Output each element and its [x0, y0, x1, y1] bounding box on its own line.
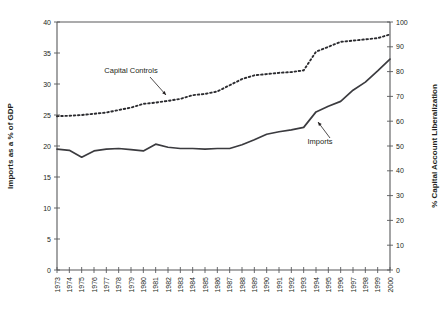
right-axis-tick-label: 0	[396, 267, 400, 274]
x-axis-tick-label: 1975	[78, 277, 85, 293]
x-axis-tick-label: 1984	[189, 277, 196, 293]
left-axis-tick-label: 10	[43, 205, 51, 212]
x-axis: 1973197419751976197719781979198019811982…	[54, 267, 394, 293]
x-axis-tick-label: 1983	[177, 277, 184, 293]
left-axis-tick-label: 30	[43, 81, 51, 88]
x-axis-tick-label: 1987	[226, 277, 233, 293]
right-axis-tick-label: 90	[396, 43, 404, 50]
x-axis-tick-label: 1992	[288, 277, 295, 293]
annotation-label-imports: Imports	[307, 137, 332, 146]
x-axis-tick-label: 1988	[239, 277, 246, 293]
x-axis-tick-label: 1982	[165, 277, 172, 293]
left-axis-title: Imports as a % of GDP	[6, 102, 15, 188]
x-axis-tick-label: 1999	[374, 277, 381, 293]
x-axis-tick-label: 1973	[54, 277, 61, 293]
x-axis-tick-label: 1981	[152, 277, 159, 293]
left-axis-tick-label: 40	[43, 19, 51, 26]
x-axis-tick-label: 1990	[263, 277, 270, 293]
right-axis-tick-label: 50	[396, 143, 404, 150]
right-axis-tick-label: 40	[396, 167, 404, 174]
x-axis-tick-label: 1985	[202, 277, 209, 293]
left-axis-tick-label: 20	[43, 143, 51, 150]
left-axis-tick-label: 15	[43, 174, 51, 181]
left-axis-tick-label: 25	[43, 112, 51, 119]
right-axis-tick-label: 30	[396, 192, 404, 199]
x-axis-tick-label: 1979	[128, 277, 135, 293]
right-axis-tick-label: 70	[396, 93, 404, 100]
left-axis-tick-label: 35	[43, 50, 51, 57]
left-axis: 0510152025303540	[43, 19, 390, 274]
right-axis-tick-label: 20	[396, 217, 404, 224]
x-axis-tick-label: 1989	[251, 277, 258, 293]
right-axis-title: % Capital Account Liberalization	[430, 84, 439, 208]
x-axis-tick-label: 1997	[350, 277, 357, 293]
annotation-label-capital-controls: Capital Controls	[104, 66, 158, 75]
series-annotations: Capital ControlsImports	[104, 66, 332, 146]
x-axis-tick-label: 1978	[115, 277, 122, 293]
x-axis-tick-label: 1977	[103, 277, 110, 293]
series-line-capital-controls	[57, 34, 390, 116]
x-axis-tick-label: 1991	[276, 277, 283, 293]
x-axis-tick-label: 1993	[300, 277, 307, 293]
x-axis-tick-label: 1994	[313, 277, 320, 293]
chart-container: 0510152025303540 0102030405060708090100 …	[0, 0, 446, 310]
right-axis-tick-label: 10	[396, 242, 404, 249]
left-axis-tick-label: 5	[47, 236, 51, 243]
dual-axis-line-chart: 0510152025303540 0102030405060708090100 …	[0, 0, 446, 310]
right-axis-tick-label: 80	[396, 68, 404, 75]
right-axis-tick-label: 100	[396, 19, 408, 26]
left-axis-tick-label: 0	[47, 267, 51, 274]
right-axis-tick-label: 60	[396, 118, 404, 125]
right-axis: 0102030405060708090100	[387, 19, 408, 274]
x-axis-tick-label: 1996	[337, 277, 344, 293]
x-axis-tick-label: 1974	[66, 277, 73, 293]
annotation-arrowhead	[318, 122, 322, 126]
x-axis-tick-label: 2000	[387, 277, 394, 293]
x-axis-tick-label: 1976	[91, 277, 98, 293]
x-axis-tick-label: 1986	[214, 277, 221, 293]
series-lines	[57, 34, 390, 157]
x-axis-tick-label: 1995	[325, 277, 332, 293]
x-axis-tick-label: 1998	[362, 277, 369, 293]
x-axis-tick-label: 1980	[140, 277, 147, 293]
